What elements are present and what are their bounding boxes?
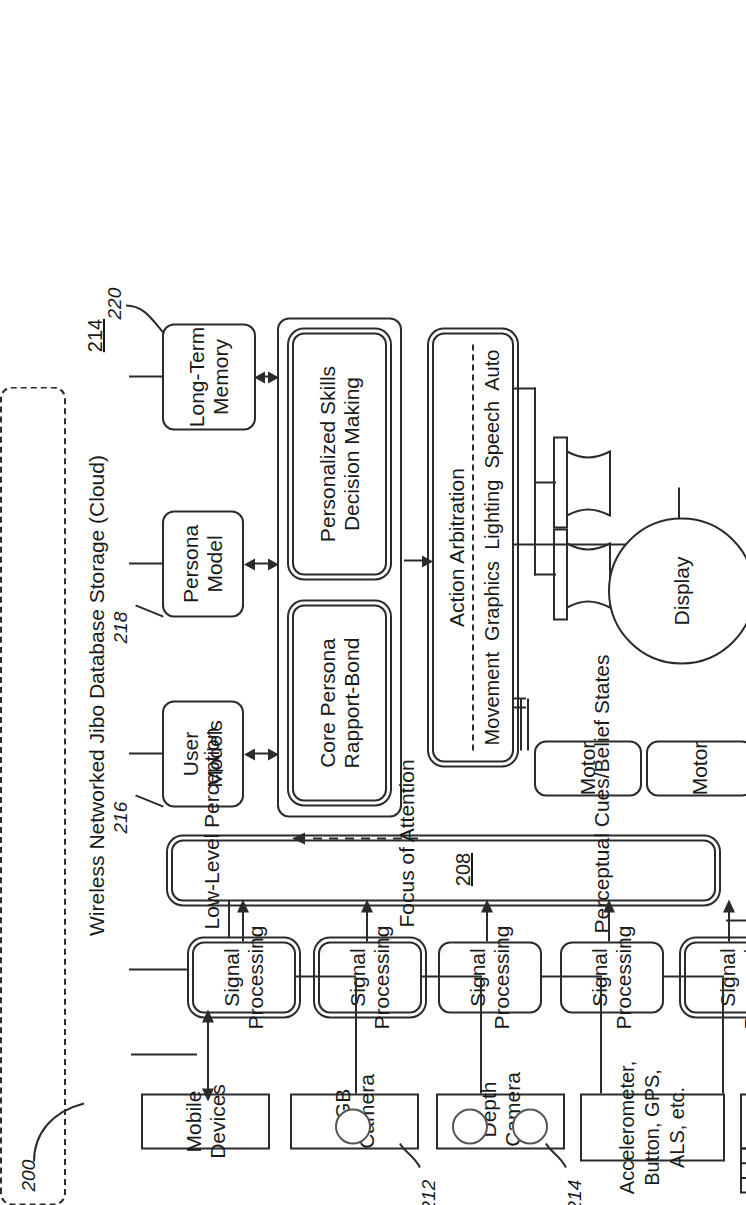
arrow-persona-model-down [268,558,279,570]
block-long-term-memory: Long-Term Memory [162,323,256,430]
ref-214-depth: 214 [564,1179,586,1205]
accel-to-sp-v [542,975,602,977]
block-display: Display [608,517,746,664]
motor-bus-b [527,698,529,750]
camera-lens-icon [512,1108,548,1144]
cloud-to-persona-model-line [129,562,163,564]
arrow-cognition-to-arbitration-head [422,555,433,567]
ref-216: 216 [110,801,132,833]
rgb-camera-to-sp-h [355,977,357,1093]
ref-214b-leader [544,1139,580,1185]
touch-sensor-grid-icon [740,1147,746,1193]
depth-camera-to-sp-v [422,975,482,977]
arbitration-divider [472,344,474,750]
arrow-mobile-devices-bidirectional [196,1009,220,1101]
block-persona-model-label: Persona Model [179,512,226,615]
ref-218: 218 [110,611,132,643]
arrow-user-models-down [268,748,279,760]
ref-212: 212 [418,1179,440,1205]
arbitration-to-speakers-trunk [514,387,536,389]
touch-to-sp-v [664,975,724,977]
block-persona-model: Persona Model [162,510,244,617]
perception-ref-208: 208 [452,831,475,907]
arrow-sp3-to-perception [472,897,494,941]
accel-to-sp-h [600,977,602,1093]
touch-to-sp-h [722,977,724,1093]
arrow-sp4-to-perception [594,897,616,941]
figure-ref-200-leader [28,1075,98,1165]
action-arbitration-channels: Movement Graphics Lighting Speech Auto [481,332,504,762]
block-personalized-skills: Personalized Skills Decision Making [292,332,387,575]
camera-lens-icon [335,1108,371,1144]
arrow-ltm-up [254,371,265,383]
block-motor: Motor [646,740,746,796]
speaker-icon [552,435,620,529]
mobile-to-cloud-line [131,1053,197,1055]
arrow-sp2-to-perception [352,897,374,941]
block-accelerometer-group: Accelerometer, Button, GPS, ALS, etc. [580,1093,725,1161]
action-arbitration-title: Action Arbitration [445,332,469,762]
block-long-term-memory-label: Long-Term Memory [185,325,232,428]
arrow-sp1-to-perception [228,897,250,941]
cloud-to-user-models-line [129,752,163,754]
perception-low-level-label: Low-Level Perception [200,809,224,929]
block-touch-sensors: Touch Sensors [740,1093,746,1149]
block-core-persona: Core Persona Rapport-Bond [292,604,387,801]
perception-to-cognition-dashed [292,805,422,845]
block-core-persona-label: Core Persona Rapport-Bond [316,606,363,799]
asr-to-perception-v [726,919,746,921]
perception-container [171,839,716,901]
block-motor-label: Motor [688,741,712,795]
rgb-camera-to-sp-v [296,975,356,977]
ref-220: 220 [104,287,126,319]
figure-page: 200 Wireless Networked Jibo Database Sto… [0,0,746,1205]
ref-218-leader [135,604,164,617]
block-motor: Motor [534,740,642,796]
patent-figure-canvas: 200 Wireless Networked Jibo Database Sto… [0,0,746,1205]
block-display-label: Display [670,556,694,625]
depth-camera-to-sp-h [480,977,482,1093]
block-signal-processing: Signal Processing [192,941,296,1013]
cloud-title: Wireless Networked Jibo Database Storage… [85,335,109,1055]
ref-220-leader [122,283,168,349]
arrow-ltm-down [268,371,279,383]
block-personalized-skills-label: Personalized Skills Decision Making [316,334,363,573]
ref-216-leader [135,794,164,807]
arrow-user-models-up [244,748,255,760]
speakers-bus-2 [534,483,536,575]
cloud-to-ltm-line [129,375,163,377]
ref-212-leader [398,1139,434,1185]
camera-lens-icon [452,1108,488,1144]
motor-bus-a [520,698,522,750]
arrow-persona-model-up [244,558,255,570]
block-accelerometer-group-label: Accelerometer, Button, GPS, ALS, etc. [615,1060,690,1193]
